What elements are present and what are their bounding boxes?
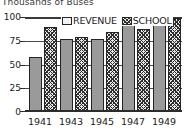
- y-axis-tick-label: 0: [15, 108, 21, 117]
- bar-school-1943: [75, 37, 88, 112]
- y-axis-tick: [20, 65, 25, 66]
- x-axis-tick-label: 1947: [118, 116, 148, 128]
- bar-revenue-1943: [60, 39, 73, 112]
- plot-area: [25, 17, 182, 112]
- x-axis-tick-label: 1945: [87, 116, 117, 128]
- chart-title: Thousands of Buses: [2, 0, 94, 8]
- legend-item-revenue: REVENUE: [62, 16, 117, 26]
- y-axis-tick: [20, 41, 25, 42]
- y-axis-tick: [20, 88, 25, 89]
- x-axis-labels: 1941 1943 1945 1947 1949: [25, 116, 182, 130]
- legend-label-school: SCHOOL: [133, 16, 172, 26]
- bar-revenue-1945: [91, 39, 104, 112]
- legend-swatch-icon-school: [122, 17, 132, 25]
- legend-label-revenue: REVENUE: [73, 16, 117, 26]
- chart-legend: REVENUE SCHOOL: [61, 15, 173, 26]
- bar-school-1941: [44, 27, 57, 113]
- x-axis-tick-label: 1949: [149, 116, 179, 128]
- x-axis-tick-label: 1941: [25, 116, 55, 128]
- x-axis-line: [25, 110, 182, 112]
- bar-revenue-1941: [29, 57, 42, 112]
- y-axis-labels: 100 75 50 25 0: [0, 17, 21, 112]
- bar-revenue-1949: [153, 25, 166, 112]
- bar-school-1947: [137, 29, 150, 112]
- bar-school-1949: [168, 18, 181, 112]
- y-axis-tick: [20, 17, 25, 18]
- bar-chart: Thousands of Buses 100 75 50 25 0: [0, 0, 185, 135]
- bar-revenue-1947: [122, 25, 135, 112]
- legend-swatch-icon-revenue: [62, 17, 72, 25]
- legend-item-school: SCHOOL: [122, 16, 172, 26]
- x-axis-tick-label: 1943: [56, 116, 86, 128]
- bar-school-1945: [106, 32, 119, 112]
- y-axis-tick-label: 100: [4, 13, 21, 22]
